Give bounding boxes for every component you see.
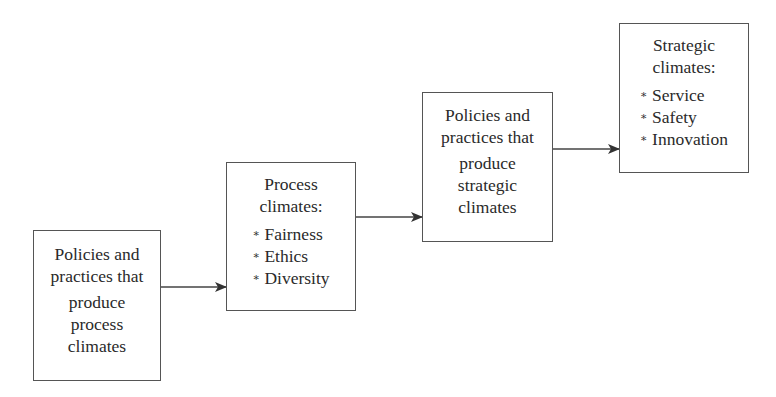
- bullet-text-ethics: Ethics: [264, 246, 308, 266]
- bullet-text-service: Service: [652, 85, 704, 105]
- list-item: ∗Ethics: [252, 245, 329, 267]
- list-item: ∗Service: [640, 84, 728, 106]
- strategic-climates-list: ∗Service ∗Safety ∗Innovation: [640, 84, 728, 150]
- list-item: ∗Innovation: [640, 128, 728, 150]
- asterisk-bullet-icon: ∗: [252, 223, 264, 244]
- box3-heading-line-2: practices that: [423, 126, 552, 148]
- bullet-text-diversity: Diversity: [264, 268, 329, 288]
- box-policies-strategic-climates: Policies and practices that produce stra…: [422, 92, 553, 242]
- asterisk-bullet-icon: ∗: [252, 245, 264, 266]
- asterisk-bullet-icon: ∗: [640, 106, 652, 127]
- process-climates-list: ∗Fairness ∗Ethics ∗Diversity: [252, 223, 329, 289]
- box2-heading-line-2: climates:: [227, 195, 355, 217]
- bullet-text-fairness: Fairness: [264, 224, 322, 244]
- asterisk-bullet-icon: ∗: [640, 128, 652, 149]
- box3-sub-line-1: produce: [423, 152, 552, 174]
- box1-sub-line-3: climates: [34, 335, 160, 357]
- bullet-text-safety: Safety: [652, 107, 697, 127]
- box1-heading-line-2: practices that: [34, 265, 160, 287]
- box1-heading-line-1: Policies and: [34, 243, 160, 265]
- box4-heading-line-1: Strategic: [620, 34, 748, 56]
- asterisk-bullet-icon: ∗: [640, 84, 652, 105]
- list-item: ∗Fairness: [252, 223, 329, 245]
- box1-sub-line-2: process: [34, 313, 160, 335]
- box3-sub-line-3: climates: [423, 196, 552, 218]
- box4-heading-line-2: climates:: [620, 56, 748, 78]
- box-process-climates: Process climates: ∗Fairness ∗Ethics ∗Div…: [226, 162, 356, 311]
- list-item: ∗Diversity: [252, 267, 329, 289]
- list-item: ∗Safety: [640, 106, 728, 128]
- box3-heading-line-1: Policies and: [423, 104, 552, 126]
- box-strategic-climates: Strategic climates: ∗Service ∗Safety ∗In…: [619, 23, 749, 173]
- bullet-text-innovation: Innovation: [652, 129, 728, 149]
- asterisk-bullet-icon: ∗: [252, 267, 264, 288]
- box2-heading-line-1: Process: [227, 173, 355, 195]
- box3-sub-line-2: strategic: [423, 174, 552, 196]
- box-policies-process-climates: Policies and practices that produce proc…: [33, 230, 161, 381]
- box1-sub-line-1: produce: [34, 291, 160, 313]
